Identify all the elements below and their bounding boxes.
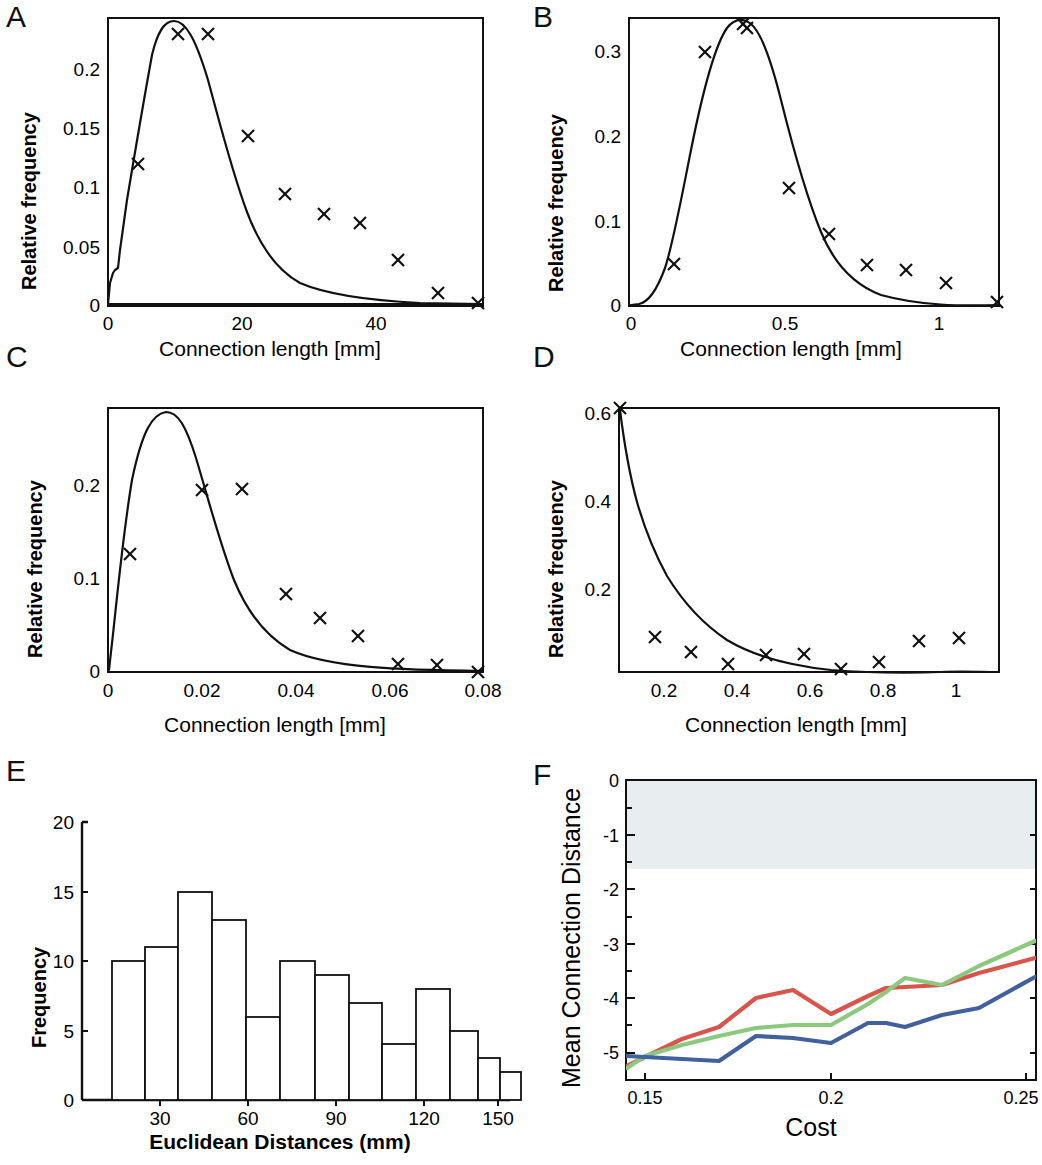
histogram-bar [280,961,315,1100]
svg-text:-4: -4 [603,989,619,1009]
histogram-bar [478,1058,500,1100]
svg-text:60: 60 [237,1108,258,1129]
panel-f-letter: F [533,760,551,790]
svg-text:0.2: 0.2 [74,59,100,80]
svg-text:0.2: 0.2 [818,1088,843,1108]
panel-d-x-tick-labels: 0.2 0.4 0.6 0.8 1 [651,680,962,701]
svg-text:0.4: 0.4 [585,491,612,512]
panel-c: C Relative frequency Connection length [… [0,340,521,740]
svg-text:5: 5 [63,1021,74,1042]
svg-text:0.08: 0.08 [465,680,502,701]
svg-text:0.25: 0.25 [1003,1088,1038,1108]
svg-text:0.4: 0.4 [724,680,751,701]
panel-e-y-axis-title: Frequency [28,947,51,1048]
panel-c-letter: C [6,342,28,372]
panel-e-y-tick-labels: 0 5 10 15 20 [53,812,74,1111]
panel-f-y-tick-labels: 0 -1 -2 -3 -4 -5 [603,771,619,1063]
panel-a-x-tick-labels: 0 20 40 [103,313,387,334]
svg-text:0.15: 0.15 [627,1088,662,1108]
panel-a-data-markers [132,28,484,309]
svg-text:-5: -5 [603,1043,619,1063]
panel-b-letter: B [533,2,553,32]
svg-text:0: 0 [63,1090,74,1111]
svg-text:20: 20 [231,313,252,334]
panel-b-y-tick-labels: 0 0.1 0.2 0.3 [595,41,621,316]
panel-c-x-axis-title: Connection length [mm] [85,713,465,737]
panel-c-frame [108,408,483,672]
histogram-bar [450,1031,478,1100]
panel-e: E Frequency Euclidean Distances (mm) [0,748,521,1165]
panel-d: D Relative frequency Connection length [… [521,340,1042,740]
panel-f-shaded-band [627,781,1035,869]
panel-d-fit-curve [620,410,999,673]
svg-text:0.02: 0.02 [184,680,221,701]
panel-b-plot: 0 0.1 0.2 0.3 0 0.5 1 [521,0,1042,335]
svg-text:0.1: 0.1 [595,211,621,232]
panel-f: F Mean Connection Distance Cost [521,748,1042,1165]
svg-text:-3: -3 [603,935,619,955]
panel-d-data-markers [614,402,965,675]
svg-text:120: 120 [408,1108,440,1129]
svg-text:0: 0 [103,313,114,334]
panel-b: B Relative frequency Connection length [… [521,0,1042,355]
panel-b-y-axis-title: Relative frequency [545,114,568,292]
figure-container: A Relative frequency Connection length [… [0,0,1042,1165]
svg-text:0: 0 [609,771,619,791]
panel-d-plot: 0.2 0.4 0.6 0.2 0.4 0.6 0.8 1 [521,340,1042,710]
svg-text:15: 15 [53,882,74,903]
panel-e-x-axis-title: Euclidean Distances (mm) [70,1130,490,1154]
panel-b-x-tick-labels: 0 0.5 1 [626,313,945,334]
histogram-bar [416,989,450,1100]
svg-text:0.3: 0.3 [595,41,621,62]
panel-c-fit-curve [109,412,483,671]
panel-c-plot: 0 0.1 0.2 0 0.02 0.04 0.06 0.08 [0,340,521,710]
panel-d-frame [619,408,999,672]
histogram-bar [112,961,145,1100]
histogram-bar [178,892,212,1100]
svg-text:20: 20 [53,812,74,833]
svg-text:0.2: 0.2 [651,680,677,701]
panel-b-data-markers [668,18,1003,308]
panel-f-x-tick-labels: 0.15 0.2 0.25 [627,1088,1038,1108]
panel-f-series-red [627,958,1035,1066]
panel-d-y-tick-labels: 0.2 0.4 0.6 [585,403,612,600]
svg-text:0.05: 0.05 [63,237,100,258]
panel-a-fit-curve [108,21,483,304]
svg-text:1: 1 [934,313,945,334]
svg-text:-2: -2 [603,880,619,900]
svg-text:0.8: 0.8 [870,680,896,701]
panel-a-plot: 0 0.05 0.1 0.15 0.2 0 20 40 [0,0,521,335]
svg-text:10: 10 [53,951,74,972]
svg-text:0.1: 0.1 [74,177,100,198]
svg-text:0.2: 0.2 [585,579,611,600]
svg-text:0.2: 0.2 [595,126,621,147]
svg-text:30: 30 [149,1108,170,1129]
histogram-bar [382,1044,416,1100]
panel-d-x-axis-title: Connection length [mm] [606,713,986,737]
panel-e-letter: E [6,756,26,786]
panel-c-x-tick-labels: 0 0.02 0.04 0.06 0.08 [103,680,502,701]
svg-text:0.1: 0.1 [74,568,100,589]
panel-c-data-markers [124,483,484,678]
panel-a: A Relative frequency Connection length [… [0,0,521,355]
panel-f-plot: 0 -1 -2 -3 -4 -5 0.15 0.2 0.25 [521,748,1042,1113]
svg-text:0: 0 [610,295,621,316]
histogram-bar [145,947,178,1100]
panel-c-y-axis-title: Relative frequency [24,480,47,658]
svg-text:0.6: 0.6 [797,680,823,701]
svg-text:0.15: 0.15 [63,118,100,139]
panel-f-x-ticks [645,1073,1026,1080]
panel-a-frame [108,18,483,306]
svg-text:0.5: 0.5 [772,313,798,334]
panel-a-y-axis-title: Relative frequency [18,112,41,290]
svg-text:40: 40 [365,313,386,334]
svg-text:0: 0 [89,295,100,316]
panel-e-x-tick-labels: 30 60 90 120 150 [149,1108,513,1129]
panel-d-letter: D [533,342,555,372]
panel-f-x-axis-title: Cost [681,1113,941,1142]
svg-text:90: 90 [325,1108,346,1129]
svg-text:150: 150 [482,1108,514,1129]
svg-text:0.2: 0.2 [74,475,100,496]
svg-text:-1: -1 [603,826,619,846]
svg-text:1: 1 [951,680,962,701]
